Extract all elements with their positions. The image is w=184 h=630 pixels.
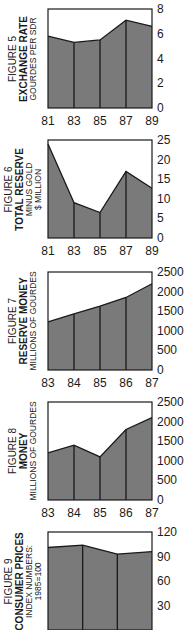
- y-tick-label: 2000: [157, 415, 184, 429]
- x-tick-label: 87: [145, 376, 159, 390]
- figure-7-reserve-money: FIGURE 7 RESERVE MONEY MILLIONS OF GOURD…: [0, 260, 182, 390]
- y-tick-label: 90: [157, 550, 171, 564]
- x-tick-label: 89: [145, 114, 159, 128]
- chart-plot: 024688183858789: [0, 0, 182, 130]
- figure-6-total-reserve: FIGURE 6 TOTAL RESERVE MINUS GOLD $ MILL…: [0, 130, 182, 260]
- y-tick-label: 8: [157, 2, 164, 16]
- x-tick-label: 81: [41, 114, 55, 128]
- y-tick-label: 1000: [157, 324, 184, 338]
- y-tick-label: 4: [157, 52, 164, 66]
- y-tick-label: 0: [157, 493, 164, 507]
- y-tick-label: 0: [157, 231, 164, 245]
- x-tick-label: 85: [93, 506, 107, 520]
- y-tick-label: 1500: [157, 434, 184, 448]
- x-tick-label: 83: [67, 114, 81, 128]
- y-tick-label: 1000: [157, 454, 184, 468]
- figure-8-money: FIGURE 8 MONEY MILLIONS OF GOURDES 05001…: [0, 390, 182, 520]
- y-tick-label: 25: [157, 133, 171, 147]
- chart-plot: 306090120: [0, 520, 182, 627]
- y-tick-label: 20: [157, 153, 171, 167]
- y-tick-label: 6: [157, 27, 164, 41]
- x-tick-label: 84: [67, 376, 81, 390]
- x-tick-label: 85: [93, 376, 107, 390]
- x-tick-label: 85: [93, 114, 107, 128]
- chart-plot: 05101520258183858789: [0, 130, 182, 260]
- x-tick-label: 84: [67, 506, 81, 520]
- x-tick-label: 86: [119, 506, 133, 520]
- y-tick-label: 5: [157, 211, 164, 225]
- y-tick-label: 10: [157, 192, 171, 206]
- y-tick-label: 1500: [157, 304, 184, 318]
- figure-5-exchange-rate: FIGURE 5 EXCHANGE RATE GOURDES PER SDR 0…: [0, 0, 182, 130]
- x-tick-label: 83: [41, 376, 55, 390]
- x-tick-label: 83: [67, 244, 81, 258]
- y-tick-label: 0: [157, 363, 164, 377]
- chart-plot: 050010001500200025008384858687: [0, 260, 182, 390]
- y-tick-label: 2: [157, 76, 164, 90]
- y-tick-label: 15: [157, 172, 171, 186]
- y-tick-label: 500: [157, 343, 177, 357]
- x-tick-label: 87: [145, 506, 159, 520]
- x-tick-label: 87: [119, 114, 133, 128]
- y-tick-label: 2500: [157, 395, 184, 409]
- y-tick-label: 0: [157, 101, 164, 115]
- figure-9-consumer-prices: FIGURE 9 CONSUMER PRICES INDEX NUMBERS: …: [0, 520, 182, 627]
- y-tick-label: 60: [157, 574, 171, 588]
- x-tick-label: 83: [41, 506, 55, 520]
- x-tick-label: 89: [145, 244, 159, 258]
- x-tick-label: 85: [93, 244, 107, 258]
- y-tick-label: 2500: [157, 265, 184, 279]
- x-tick-label: 86: [119, 376, 133, 390]
- x-tick-label: 81: [41, 244, 55, 258]
- x-tick-label: 87: [119, 244, 133, 258]
- y-tick-label: 30: [157, 599, 171, 613]
- area-fill: [48, 545, 152, 630]
- chart-plot: 050010001500200025008384858687: [0, 390, 182, 520]
- y-tick-label: 120: [157, 525, 177, 539]
- y-tick-label: 500: [157, 473, 177, 487]
- y-tick-label: 2000: [157, 285, 184, 299]
